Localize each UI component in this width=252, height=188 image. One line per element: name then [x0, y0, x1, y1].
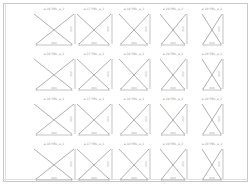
vertical-dimension: XXX — [182, 161, 185, 167]
shape-cell: a-20°PBL_a_2XXXXXX — [202, 97, 223, 136]
shape-cell: a-20°PBL_a_2XXXXXX — [202, 7, 223, 46]
shape-label: a-18°PBL_a_2 — [124, 52, 145, 56]
diagonal-line — [36, 14, 74, 44]
bottom-dimension: XXX — [51, 177, 57, 180]
vertical-dimension: XXX — [107, 71, 110, 77]
diagonal-line — [77, 149, 109, 179]
shape-label: a-18°PBL_a_2 — [124, 97, 145, 101]
shape-label: a-18°PBL_a_2 — [124, 7, 145, 11]
shape-label: a-18°PBL_a_2 — [124, 142, 145, 146]
shape-label: a-16°PBL_a_2 — [44, 142, 65, 146]
vertical-dimension: XXX — [218, 161, 221, 167]
diagonal-line — [34, 149, 72, 179]
shape-cell: a-17°PBL_a_2XXXXXX — [77, 97, 112, 136]
diagonal-line — [160, 149, 184, 179]
bottom-dimension: XXX — [170, 87, 176, 90]
shape-label: a-19°PBL_a_2 — [163, 52, 184, 56]
shape-cell: a-18°PBL_a_2XXXXXX — [119, 97, 150, 136]
shape-cell: a-16°PBL_a_2XXXXXX — [34, 142, 75, 181]
shape-label: a-16°PBL_a_2 — [44, 52, 65, 56]
diagonal-line — [77, 59, 109, 89]
drawing-canvas: a-16°PBL_a_2XXXXXXa-17°PBL_a_2XXXXXXa-18… — [0, 0, 252, 188]
bottom-dimension: XXX — [131, 87, 137, 90]
bottom-dimension: XXX — [170, 132, 176, 135]
bottom-dimension: XXX — [131, 177, 137, 180]
shape-label: a-19°PBL_a_2 — [163, 97, 184, 101]
shape-label: a-20°PBL_a_2 — [202, 7, 223, 11]
vertical-dimension: XXX — [70, 26, 73, 32]
shape-label: a-16°PBL_a_2 — [44, 97, 65, 101]
vertical-dimension: XXX — [218, 26, 221, 32]
diagonal-line — [36, 104, 74, 134]
shape-grid: a-16°PBL_a_2XXXXXXa-17°PBL_a_2XXXXXXa-18… — [34, 7, 223, 181]
bottom-dimension: XXX — [51, 42, 57, 45]
diagonal-line — [119, 104, 147, 134]
shape-label: a-17°PBL_a_2 — [84, 97, 105, 101]
bottom-dimension: XXX — [209, 42, 215, 45]
vertical-dimension: XXX — [107, 116, 110, 122]
diagonal-line — [34, 104, 72, 134]
shape-cell: a-19°PBL_a_2XXXXXX — [160, 7, 187, 46]
vertical-dimension: XXX — [70, 116, 73, 122]
shape-label: a-19°PBL_a_2 — [163, 142, 184, 146]
vertical-dimension: XXX — [182, 116, 185, 122]
shape-cell: a-19°PBL_a_2XXXXXX — [160, 97, 187, 136]
diagonal-line — [34, 14, 72, 44]
shape-cell: a-16°PBL_a_2XXXXXX — [34, 7, 75, 46]
vertical-dimension: XXX — [70, 161, 73, 167]
vertical-dimension: XXX — [218, 116, 221, 122]
diagonal-line — [160, 104, 184, 134]
diagonal-line — [160, 59, 184, 89]
shape-cell: a-19°PBL_a_2XXXXXX — [160, 142, 187, 181]
diagonal-line — [36, 149, 74, 179]
shape-label: a-20°PBL_a_2 — [202, 142, 223, 146]
outer-border — [4, 4, 248, 182]
shape-label: a-19°PBL_a_2 — [163, 7, 184, 11]
vertical-dimension: XXX — [145, 71, 148, 77]
shape-cell: a-16°PBL_a_2XXXXXX — [34, 97, 75, 136]
shape-label: a-20°PBL_a_2 — [202, 97, 223, 101]
shape-label: a-17°PBL_a_2 — [84, 52, 105, 56]
shape-cell: a-18°PBL_a_2XXXXXX — [119, 52, 150, 91]
bottom-dimension: XXX — [209, 177, 215, 180]
bottom-dimension: XXX — [131, 42, 137, 45]
shape-label: a-20°PBL_a_2 — [202, 52, 223, 56]
bottom-dimension: XXX — [51, 87, 57, 90]
bottom-dimension: XXX — [131, 132, 137, 135]
diagonal-line — [119, 59, 147, 89]
diagonal-line — [34, 59, 72, 89]
diagonal-line — [119, 14, 147, 44]
vertical-dimension: XXX — [70, 71, 73, 77]
bottom-dimension: XXX — [51, 132, 57, 135]
shape-cell: a-17°PBL_a_2XXXXXX — [77, 7, 112, 46]
shape-cell: a-17°PBL_a_2XXXXXX — [77, 52, 112, 91]
bottom-dimension: XXX — [170, 42, 176, 45]
diagonal-line — [77, 14, 109, 44]
shape-label: a-17°PBL_a_2 — [84, 7, 105, 11]
shape-cell: a-18°PBL_a_2XXXXXX — [119, 7, 150, 46]
vertical-dimension: XXX — [145, 26, 148, 32]
diagonal-line — [119, 149, 147, 179]
shape-cell: a-20°PBL_a_2XXXXXX — [202, 142, 223, 181]
bottom-dimension: XXX — [91, 177, 97, 180]
bottom-dimension: XXX — [209, 87, 215, 90]
bottom-dimension: XXX — [91, 42, 97, 45]
diagonal-line — [36, 59, 74, 89]
shape-label: a-17°PBL_a_2 — [84, 142, 105, 146]
shape-label: a-16°PBL_a_2 — [44, 7, 65, 11]
vertical-dimension: XXX — [218, 71, 221, 77]
shape-cell: a-20°PBL_a_2XXXXXX — [202, 52, 223, 91]
vertical-dimension: XXX — [182, 26, 185, 32]
shape-cell: a-18°PBL_a_2XXXXXX — [119, 142, 150, 181]
vertical-dimension: XXX — [145, 161, 148, 167]
drawing-sheet: a-16°PBL_a_2XXXXXXa-17°PBL_a_2XXXXXXa-18… — [0, 0, 252, 188]
vertical-dimension: XXX — [107, 161, 110, 167]
vertical-dimension: XXX — [182, 71, 185, 77]
bottom-dimension: XXX — [91, 132, 97, 135]
diagonal-line — [77, 104, 109, 134]
shape-cell: a-17°PBL_a_2XXXXXX — [77, 142, 112, 181]
bottom-dimension: XXX — [91, 87, 97, 90]
bottom-dimension: XXX — [170, 177, 176, 180]
vertical-dimension: XXX — [145, 116, 148, 122]
sheet-border — [4, 4, 248, 182]
